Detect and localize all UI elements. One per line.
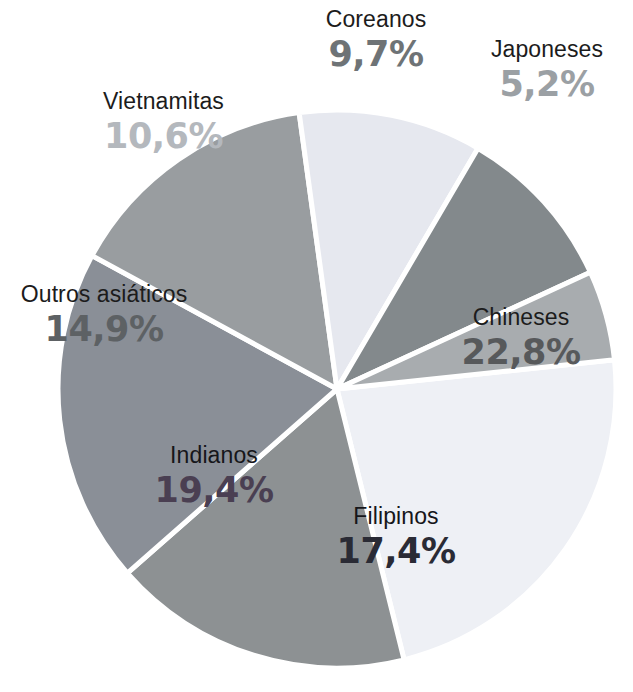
pie-chart-canvas xyxy=(0,0,633,692)
pie-slices-group xyxy=(58,110,616,668)
pie-chart: Coreanos 9,7% Japoneses 5,2% Vietnamitas… xyxy=(0,0,633,692)
